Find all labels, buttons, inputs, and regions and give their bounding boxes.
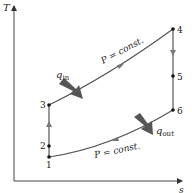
state-point-3 [47, 103, 51, 107]
state-point-6 [171, 108, 175, 112]
process-3-4 [49, 29, 173, 105]
direction-arrow-icon [46, 121, 52, 127]
state-point-1 [47, 155, 51, 159]
point-label-4: 4 [177, 25, 183, 35]
point-label-6: 6 [177, 106, 183, 116]
heat-out-arrow-icon [134, 113, 153, 135]
t-s-diagram: T s qin qout P = const. P = const. 1 2 3… [0, 0, 192, 193]
state-point-5 [171, 74, 175, 78]
point-label-3: 3 [40, 100, 46, 110]
direction-arrow-icon [112, 137, 119, 141]
state-point-2 [47, 144, 51, 148]
upper-pressure-label: P = const. [98, 35, 145, 66]
direction-arrow-icon [170, 50, 176, 56]
t-axis-label: T [3, 2, 11, 13]
q-out-label: qout [156, 125, 174, 138]
lower-pressure-label: P = const. [92, 140, 141, 160]
s-axis-label: s [179, 185, 184, 193]
point-label-5: 5 [177, 72, 183, 82]
q-in-label: qin [56, 69, 70, 82]
point-label-1: 1 [46, 160, 52, 170]
point-label-2: 2 [40, 141, 46, 151]
state-point-4 [171, 27, 175, 31]
direction-arrow-icon [117, 64, 124, 69]
